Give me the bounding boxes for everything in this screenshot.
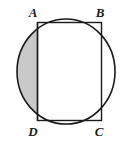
rectangle-abcd xyxy=(38,23,102,121)
vertex-label-a: A xyxy=(28,5,38,20)
geometry-diagram: A B C D xyxy=(0,0,130,142)
vertex-label-d: D xyxy=(27,124,38,139)
vertex-label-b: B xyxy=(95,5,105,20)
geometry-figure-container: A B C D xyxy=(0,0,130,142)
vertex-label-c: C xyxy=(95,124,104,139)
